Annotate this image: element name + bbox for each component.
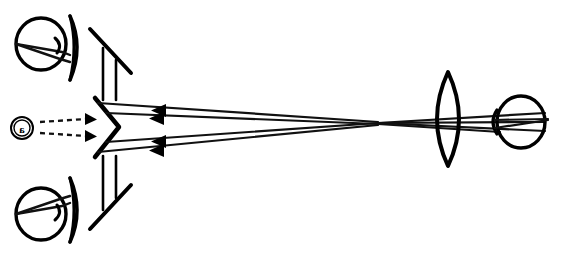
object-symbol: a <box>11 117 33 139</box>
eye-right-internal-ray-a <box>495 119 548 120</box>
optical-ray-diagram: a <box>0 0 561 257</box>
object-symbol-letter: a <box>19 123 25 135</box>
right-ray-upper-inner <box>378 122 545 123</box>
diagram-canvas: a <box>0 0 561 257</box>
